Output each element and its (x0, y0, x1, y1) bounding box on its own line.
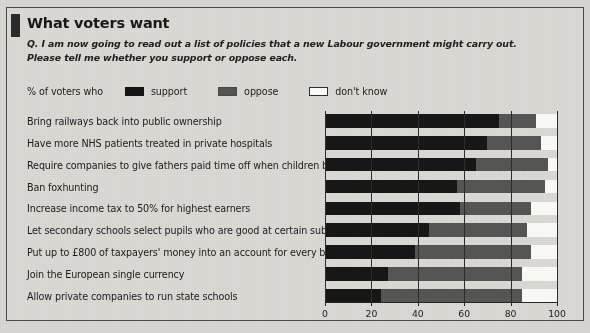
bar-segment-support[interactable] (325, 267, 388, 281)
bar-segment-support[interactable] (325, 114, 499, 128)
legend-swatch-oppose-icon (218, 87, 237, 96)
legend-label-oppose: oppose (244, 86, 278, 97)
bar-category-label: Ban foxhunting (27, 177, 98, 199)
stacked-bar[interactable] (325, 289, 557, 303)
legend-swatch-support-icon (125, 87, 144, 96)
bar-segment-oppose[interactable] (429, 223, 526, 237)
stacked-bar[interactable] (325, 202, 557, 216)
bar-segment-dontknow[interactable] (522, 289, 557, 303)
bar-segment-support[interactable] (325, 158, 476, 172)
stacked-bar[interactable] (325, 245, 557, 259)
legend-label-dontknow: don't know (335, 86, 387, 97)
stacked-bar[interactable] (325, 180, 557, 194)
accent-bar (11, 14, 20, 37)
chart-row: Join the European single currency (0, 264, 590, 286)
legend-item-dontknow: don't know (309, 86, 387, 97)
bar-segment-dontknow[interactable] (545, 180, 557, 194)
chart-row: Bring railways back into public ownershi… (0, 111, 590, 133)
bar-segment-support[interactable] (325, 202, 460, 216)
legend-swatch-dontknow-icon (309, 87, 328, 96)
chart-row: Put up to £800 of taxpayers' money into … (0, 242, 590, 264)
bar-segment-oppose[interactable] (460, 202, 532, 216)
bar-segment-oppose[interactable] (457, 180, 545, 194)
bar-segment-oppose[interactable] (487, 136, 540, 150)
chart-row: Ban foxhunting (0, 177, 590, 199)
bar-segment-dontknow[interactable] (541, 136, 557, 150)
bar-category-label: Bring railways back into public ownershi… (27, 111, 222, 133)
bar-category-label: Increase income tax to 50% for highest e… (27, 198, 250, 220)
bar-category-label: Put up to £800 of taxpayers' money into … (27, 242, 343, 264)
bar-category-label: Have more NHS patients treated in privat… (27, 133, 272, 155)
bar-segment-dontknow[interactable] (531, 202, 557, 216)
stacked-bar[interactable] (325, 223, 557, 237)
bar-segment-dontknow[interactable] (527, 223, 557, 237)
bar-segment-support[interactable] (325, 136, 487, 150)
stacked-bar[interactable] (325, 158, 557, 172)
chart-row: Allow private companies to run state sch… (0, 286, 590, 308)
bar-segment-oppose[interactable] (415, 245, 531, 259)
figure: What voters want Q. I am now going to re… (0, 0, 590, 333)
bar-segment-support[interactable] (325, 289, 381, 303)
bar-segment-oppose[interactable] (388, 267, 523, 281)
bar-segment-dontknow[interactable] (548, 158, 557, 172)
legend-item-oppose: oppose (218, 86, 278, 97)
legend-caption: % of voters who (27, 86, 103, 97)
bar-category-label: Allow private companies to run state sch… (27, 286, 237, 308)
bar-segment-oppose[interactable] (381, 289, 523, 303)
legend-label-support: support (151, 86, 187, 97)
legend: % of voters who support oppose don't kno… (27, 84, 387, 98)
chart-row: Require companies to give fathers paid t… (0, 155, 590, 177)
bar-segment-support[interactable] (325, 223, 429, 237)
page-title: What voters want (27, 15, 169, 31)
chart-row: Have more NHS patients treated in privat… (0, 133, 590, 155)
bar-segment-dontknow[interactable] (522, 267, 557, 281)
bar-segment-dontknow[interactable] (536, 114, 557, 128)
chart-row: Let secondary schools select pupils who … (0, 220, 590, 242)
bar-segment-oppose[interactable] (499, 114, 536, 128)
stacked-bar[interactable] (325, 136, 557, 150)
bar-category-label: Join the European single currency (27, 264, 184, 286)
bar-segment-support[interactable] (325, 245, 415, 259)
stacked-bar[interactable] (325, 114, 557, 128)
legend-item-support: support (125, 86, 187, 97)
chart-row: Increase income tax to 50% for highest e… (0, 198, 590, 220)
question-text: Q. I am now going to read out a list of … (27, 37, 547, 64)
bar-segment-oppose[interactable] (476, 158, 548, 172)
bar-category-label: Require companies to give fathers paid t… (27, 155, 343, 177)
stacked-bar[interactable] (325, 267, 557, 281)
bar-category-label: Let secondary schools select pupils who … (27, 220, 349, 242)
bar-segment-support[interactable] (325, 180, 457, 194)
bar-segment-dontknow[interactable] (531, 245, 557, 259)
